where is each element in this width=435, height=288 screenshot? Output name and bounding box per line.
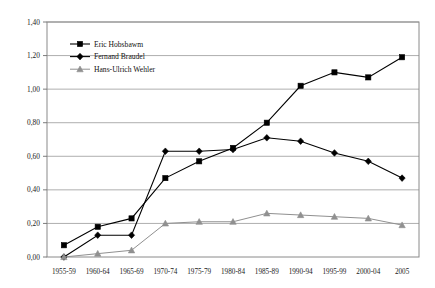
x-tick-label: 2000-04 [356, 268, 380, 276]
x-tick-label: 1965-69 [120, 268, 144, 276]
y-tick-label: 0,00 [27, 253, 40, 262]
y-tick-label: 0,40 [27, 185, 40, 194]
square-marker-icon [332, 70, 337, 75]
y-tick-label: 0,20 [27, 219, 40, 228]
chart-legend: Eric HobsbawmFernand BraudelHans-Ulrich … [70, 40, 156, 74]
x-tick-label: 1970-74 [153, 268, 177, 276]
square-marker-icon [163, 176, 168, 181]
legend-label: Hans-Ulrich Wehler [94, 65, 156, 74]
square-marker-icon [61, 243, 66, 248]
chart-container: 0,000,200,400,600,801,001,201,40 1955-59… [0, 0, 435, 288]
x-tick-label: 1980-84 [221, 268, 245, 276]
square-marker-icon [264, 120, 269, 125]
x-tick-label: 1985-89 [255, 268, 279, 276]
y-axis-ticks: 0,000,200,400,600,801,001,201,40 [27, 18, 47, 262]
x-tick-label: 1960-64 [86, 268, 110, 276]
y-tick-label: 1,00 [27, 85, 40, 94]
square-marker-icon [399, 55, 404, 60]
line-chart: 0,000,200,400,600,801,001,201,40 1955-59… [0, 0, 435, 288]
legend-label: Eric Hobsbawm [94, 40, 143, 49]
x-tick-label: 1975-79 [187, 268, 211, 276]
x-tick-label: 2005 [395, 268, 410, 276]
x-tick-label: 1995-99 [322, 268, 346, 276]
x-tick-label: 1990-94 [289, 268, 313, 276]
y-tick-label: 0,80 [27, 118, 40, 127]
y-tick-label: 1,40 [27, 18, 40, 27]
x-axis-ticks: 1955-591960-641965-691970-741975-791980-… [52, 268, 410, 276]
square-marker-icon [129, 216, 134, 221]
x-tick-label: 1955-59 [52, 268, 76, 276]
square-marker-icon [197, 159, 202, 164]
legend-label: Fernand Braudel [94, 52, 145, 61]
square-marker-icon [77, 41, 82, 46]
square-marker-icon [366, 75, 371, 80]
square-marker-icon [95, 224, 100, 229]
square-marker-icon [298, 83, 303, 88]
y-tick-label: 0,60 [27, 152, 40, 161]
y-tick-label: 1,20 [27, 51, 40, 60]
